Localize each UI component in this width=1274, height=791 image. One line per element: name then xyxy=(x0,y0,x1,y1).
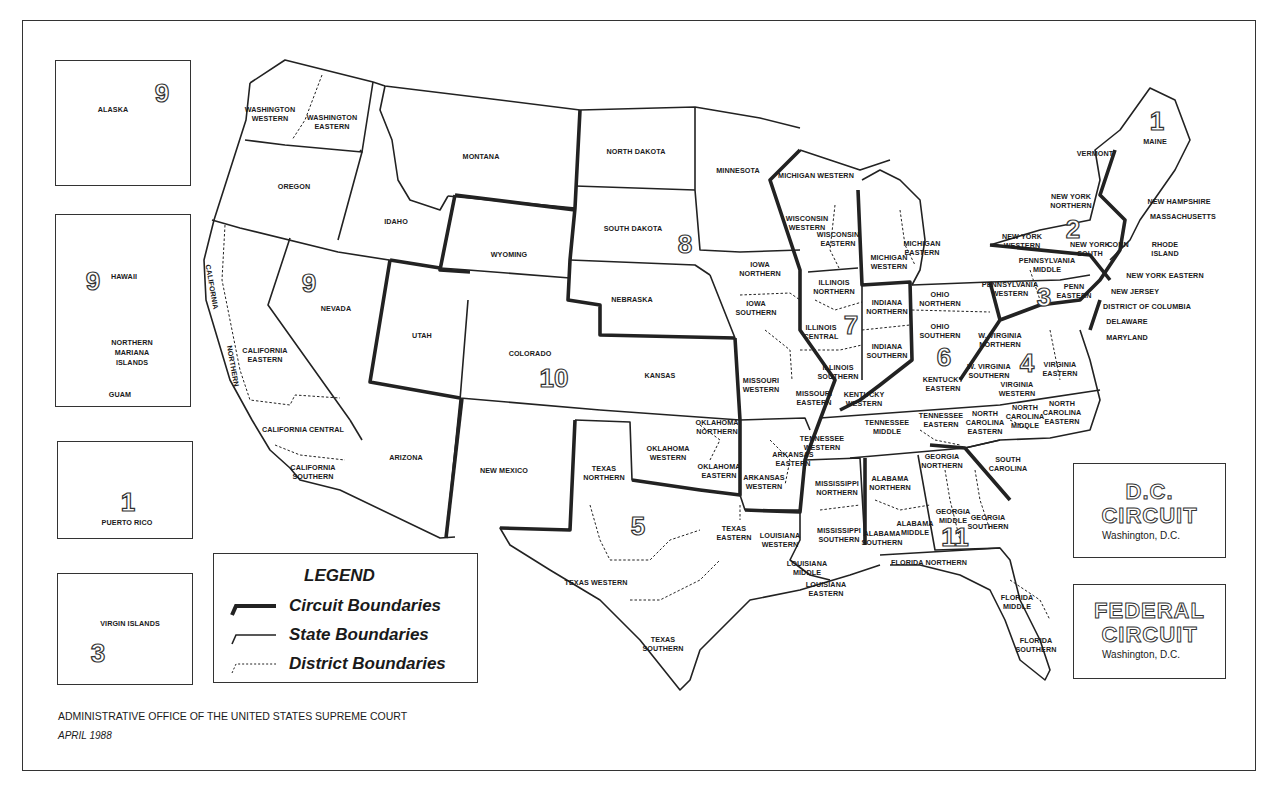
dc-circuit-box: D.C. CIRCUIT Washington, D.C. xyxy=(1073,463,1226,558)
district-label: OKLAHOMANORTHERN xyxy=(695,418,738,436)
district-label: MISSOURIWESTERN xyxy=(743,376,780,394)
legend-label: Circuit Boundaries xyxy=(289,596,441,616)
circuit-number: 1 xyxy=(1150,108,1164,134)
virgin-islands-inset xyxy=(57,573,193,685)
federal-circuit-location: Washington, D.C. xyxy=(1074,649,1225,660)
district-label: TENNESSEEMIDDLE xyxy=(865,418,909,436)
district-label: KENTUCKYEASTERN xyxy=(923,375,964,393)
publication-date: APRIL 1988 xyxy=(58,730,112,741)
district-label: NEW YORKNORTHERN xyxy=(1050,192,1092,210)
legend-label: District Boundaries xyxy=(289,654,446,674)
district-label: TEXASNORTHERN xyxy=(583,464,625,482)
dc-circuit-title-1: D.C. xyxy=(1074,480,1225,504)
legend-item-district: District Boundaries xyxy=(224,654,474,676)
district-label: NORTH DAKOTA xyxy=(607,147,666,156)
district-label: LOUISIANAMIDDLE xyxy=(787,559,827,577)
district-label: FLORIDAMIDDLE xyxy=(1001,593,1034,611)
district-label: ALABAMANORTHERN xyxy=(869,474,911,492)
alaska-label: ALASKA xyxy=(98,105,129,114)
puerto-rico-circuit-number: 1 xyxy=(121,489,135,515)
district-label: NORTHCAROLINAMIDDLE xyxy=(1006,403,1045,430)
district-label: MISSISSIPPISOUTHERN xyxy=(817,526,861,544)
district-label: CALIFORNIASOUTHERN xyxy=(290,463,335,481)
district-label: MARYLAND xyxy=(1106,333,1148,342)
district-label: RHODEISLAND xyxy=(1151,240,1178,258)
district-label: INDIANANORTHERN xyxy=(866,298,908,316)
district-label: WASHINGTONWESTERN xyxy=(245,105,295,123)
district-label: GEORGIANORTHERN xyxy=(921,452,963,470)
guam-label: GUAM xyxy=(109,390,131,399)
alaska-circuit-number: 9 xyxy=(155,80,169,106)
nmi-label-3: ISLANDS xyxy=(116,358,148,367)
district-label: IOWANORTHERN xyxy=(739,260,781,278)
federal-circuit-title-2: CIRCUIT xyxy=(1074,623,1225,647)
circuit-number: 3 xyxy=(1037,284,1051,310)
district-label: ALABAMASOUTHERN xyxy=(861,529,902,547)
dc-circuit-title-2: CIRCUIT xyxy=(1074,504,1225,528)
district-label: MONTANA xyxy=(463,152,500,161)
district-label: W. VIRGINIASOUTHERN xyxy=(967,362,1010,380)
district-label: MASSACHUSETTS xyxy=(1150,212,1216,221)
district-label: DISTRICT OF COLUMBIA xyxy=(1103,302,1191,311)
district-label: INDIANASOUTHERN xyxy=(866,342,907,360)
legend-label: State Boundaries xyxy=(289,625,429,645)
federal-circuit-box: FEDERAL CIRCUIT Washington, D.C. xyxy=(1073,584,1226,679)
district-label: ILLINOISSOUTHERN xyxy=(817,363,858,381)
district-label: OKLAHOMAWESTERN xyxy=(646,444,689,462)
legend: LEGEND Circuit Boundaries State Boundari… xyxy=(213,553,478,683)
district-label: NEBRASKA xyxy=(611,295,653,304)
circuit-number: 9 xyxy=(302,270,316,296)
district-label: OKLAHOMAEASTERN xyxy=(697,462,740,480)
pacific-circuit-number: 9 xyxy=(86,268,100,294)
district-label: MAINE xyxy=(1143,137,1167,146)
district-label: OREGON xyxy=(278,182,311,191)
district-label: NEW HAMPSHIRE xyxy=(1147,197,1210,206)
district-label: UTAH xyxy=(412,331,432,340)
district-label: PENNSYLVANIAWESTERN xyxy=(982,280,1038,298)
district-label: W. VIRGINIANORTHERN xyxy=(978,331,1021,349)
virgin-islands-circuit-number: 3 xyxy=(91,640,105,666)
district-label: CONN xyxy=(1107,240,1129,249)
district-label: WISCONSINEASTERN xyxy=(817,230,859,248)
district-label: MICHIGANEASTERN xyxy=(903,239,940,257)
district-label: NEW YORK EASTERN xyxy=(1126,271,1203,280)
district-label: MISSISSIPPINORTHERN xyxy=(815,479,859,497)
puerto-rico-label: PUERTO RICO xyxy=(102,518,153,527)
circuit-number: 10 xyxy=(540,365,569,391)
district-label: TENNESSEEEASTERN xyxy=(919,411,963,429)
district-label: ILLINOISNORTHERN xyxy=(813,278,855,296)
district-label: ARKANSASWESTERN xyxy=(743,473,785,491)
district-label: DELAWARE xyxy=(1106,317,1148,326)
district-label: MISSOURIEASTERN xyxy=(796,389,832,407)
circuit-number: 7 xyxy=(844,312,858,338)
circuit-number: 11 xyxy=(941,524,969,550)
district-label: MICHIGANWESTERN xyxy=(870,253,907,271)
alaska-inset xyxy=(55,60,191,186)
district-label: VIRGINIAWESTERN xyxy=(999,380,1036,398)
legend-item-circuit: Circuit Boundaries xyxy=(224,596,474,618)
district-label: OHIOSOUTHERN xyxy=(919,322,960,340)
district-label: MINNESOTA xyxy=(716,166,760,175)
district-label: LOUISIANAEASTERN xyxy=(806,580,846,598)
district-label: NEW JERSEY xyxy=(1111,287,1159,296)
district-label: IOWASOUTHERN xyxy=(735,299,776,317)
hawaii-label: HAWAII xyxy=(111,272,137,281)
district-label: FLORIDASOUTHERN xyxy=(1015,636,1056,654)
legend-title: LEGEND xyxy=(304,566,375,586)
district-label: SOUTHCAROLINA xyxy=(989,455,1028,473)
district-label: KENTUCKYWESTERN xyxy=(844,390,885,408)
district-label: NEW YORKWESTERN xyxy=(1002,232,1042,250)
legend-item-state: State Boundaries xyxy=(224,625,474,647)
district-label: CALIFORNIA CENTRAL xyxy=(262,425,344,434)
circuit-number: 2 xyxy=(1066,216,1080,242)
publisher-credit: ADMINISTRATIVE OFFICE OF THE UNITED STAT… xyxy=(58,710,407,722)
district-label: WASHINGTONEASTERN xyxy=(307,113,357,131)
district-label: VERMONT xyxy=(1077,149,1114,158)
district-label: NORTHCAROLINAEASTERN xyxy=(1043,399,1082,426)
district-label: KANSAS xyxy=(645,371,676,380)
federal-circuit-title-1: FEDERAL xyxy=(1074,599,1225,623)
district-label: WYOMING xyxy=(491,250,528,259)
circuit-number: 4 xyxy=(1020,350,1034,376)
district-label: MICHIGAN WESTERN xyxy=(778,171,854,180)
district-label: CALIFORNIAEASTERN xyxy=(242,346,287,364)
